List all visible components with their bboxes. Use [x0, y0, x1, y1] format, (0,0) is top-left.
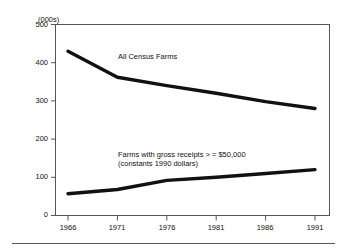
x-tick-label-1976: 1976 [150, 224, 184, 232]
series-label-large-farms-line2: (constants 1990 dollars) [118, 159, 198, 168]
plot-frame [56, 25, 330, 216]
chart-figure: (000s) 500 400 300 200 100 0 1966 1971 1… [0, 0, 347, 250]
series-label-all-census-farms: All Census Farms [118, 52, 177, 61]
series-label-large-farms-line1: Farms with gross receipts > = $50,000 [118, 150, 246, 159]
y-tick-label-300: 300 [22, 97, 48, 105]
y-tick-label-400: 400 [22, 59, 48, 67]
bottom-divider [12, 243, 335, 244]
y-tick-label-500: 500 [22, 21, 48, 29]
plot-area [0, 0, 347, 250]
y-tick-label-200: 200 [22, 135, 48, 143]
x-tick-label-1981: 1981 [199, 224, 233, 232]
line-all-census-farms [68, 51, 315, 108]
y-tick-label-100: 100 [22, 173, 48, 181]
x-tick-label-1971: 1971 [100, 224, 134, 232]
x-tick-label-1986: 1986 [248, 224, 282, 232]
x-tick-label-1966: 1966 [51, 224, 85, 232]
line-large-gross-receipt-farms [68, 170, 315, 194]
y-tick-label-0: 0 [22, 211, 48, 219]
x-tick-label-1991: 1991 [298, 224, 332, 232]
x-tick-marks [68, 216, 315, 221]
